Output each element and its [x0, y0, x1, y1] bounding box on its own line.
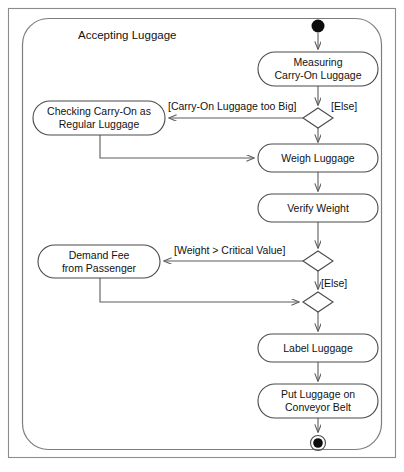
action-node-weigh-luggage[interactable]: Weigh Luggage: [258, 144, 378, 172]
action-label-checking-line2: Regular Luggage: [59, 118, 140, 130]
action-label-measuring-line1: Measuring: [293, 56, 342, 68]
action-label-label-luggage: Label Luggage: [283, 342, 353, 354]
guard-label-weight-critical-value: [Weight > Critical Value]: [174, 244, 285, 256]
activity-diagram: Accepting Luggage Measuring Carry-On Lug…: [0, 0, 404, 472]
action-node-put-luggage-on-conveyor-belt[interactable]: Put Luggage on Conveyor Belt: [258, 384, 378, 418]
guard-label-carry-on-too-big: [Carry-On Luggage too Big]: [168, 100, 296, 112]
action-label-verify-weight: Verify Weight: [287, 202, 349, 214]
action-label-weigh-luggage: Weigh Luggage: [281, 152, 355, 164]
action-node-checking-carry-on-as-regular-luggage[interactable]: Checking Carry-On as Regular Luggage: [33, 101, 165, 135]
guard-label-else-1: [Else]: [331, 100, 357, 112]
diagram-canvas: Accepting Luggage Measuring Carry-On Lug…: [0, 0, 404, 472]
action-node-demand-fee-from-passenger[interactable]: Demand Fee from Passenger: [38, 245, 160, 278]
action-label-checking-line1: Checking Carry-On as: [47, 105, 151, 117]
action-label-demandfee-line2: from Passenger: [62, 262, 137, 274]
action-node-measuring-carry-on-luggage[interactable]: Measuring Carry-On Luggage: [258, 52, 378, 86]
action-label-demandfee-line1: Demand Fee: [69, 249, 130, 261]
action-label-measuring-line2: Carry-On Luggage: [275, 69, 362, 81]
activity-title: Accepting Luggage: [78, 29, 176, 41]
guard-label-else-2: [Else]: [321, 277, 347, 289]
action-label-conveyor-line1: Put Luggage on: [281, 388, 355, 400]
action-node-verify-weight[interactable]: Verify Weight: [258, 194, 378, 222]
initial-node: [312, 20, 325, 33]
action-label-conveyor-line2: Conveyor Belt: [285, 401, 351, 413]
action-node-label-luggage[interactable]: Label Luggage: [258, 334, 378, 362]
